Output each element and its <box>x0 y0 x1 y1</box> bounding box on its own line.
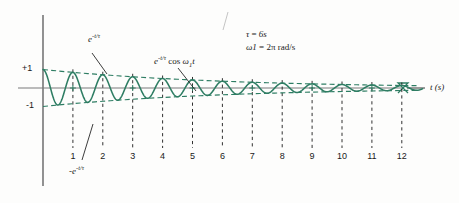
leader-line-lower-envelope <box>82 124 93 160</box>
x-tick-label: 7 <box>243 152 261 161</box>
axis-plus-mark <box>309 85 315 91</box>
waveform-cos: cos <box>168 56 180 66</box>
upper-envelope-exponent: -t/τ <box>92 32 100 39</box>
x-tick-label: 6 <box>213 152 231 161</box>
leader-line-upper-envelope <box>92 53 107 74</box>
parameter-annotation-box: τ = 6s ω1 = 2π rad/s <box>246 28 295 54</box>
lower-envelope-curve <box>43 90 417 106</box>
x-tick-label: 8 <box>273 152 291 161</box>
stray-mark <box>223 12 228 30</box>
damped-oscillation-figure: +1 -1 t (s) 123456789101112 e-t/τ e-t/τ … <box>0 0 459 203</box>
parameter-row-tau: τ = 6s <box>246 28 295 41</box>
tau-value: 6s <box>259 29 267 39</box>
tick-guide-group <box>73 69 402 148</box>
damped-cosine-curve <box>43 70 423 106</box>
tau-symbol: τ <box>246 29 249 39</box>
lower-envelope-annotation: -e-t/τ <box>69 165 84 176</box>
omega-equals: = <box>259 42 264 52</box>
upper-envelope-annotation: e-t/τ <box>88 33 100 44</box>
x-axis-label: t (s) <box>430 83 444 92</box>
lower-envelope-exponent: -t/τ <box>76 164 84 171</box>
x-tick-label: 3 <box>124 152 142 161</box>
y-axis-positive-label: +1 <box>22 64 32 73</box>
y-axis-negative-label: -1 <box>26 101 34 110</box>
waveform-omega-var: t <box>192 56 195 66</box>
x-tick-label: 4 <box>154 152 172 161</box>
x-tick-label: 5 <box>184 152 202 161</box>
x-tick-label: 1 <box>64 152 82 161</box>
omega-value: 2π rad/s <box>266 42 295 52</box>
waveform-annotation: e-t/τ cos ω1t <box>154 55 195 68</box>
tau-equals: = <box>251 29 256 39</box>
x-tick-label: 10 <box>333 152 351 161</box>
waveform-exponent: -t/τ <box>158 54 166 61</box>
x-tick-label: 2 <box>94 152 112 161</box>
axis-plus-mark <box>70 85 76 91</box>
x-tick-label: 9 <box>303 152 321 161</box>
x-tick-label: 12 <box>393 152 411 161</box>
axis-plus-mark <box>130 85 136 91</box>
axis-plus-mark <box>249 85 255 91</box>
omega-subscript: 1 <box>252 42 257 52</box>
x-tick-label: 11 <box>363 152 381 161</box>
parameter-row-omega: ω1 = 2π rad/s <box>246 41 295 54</box>
